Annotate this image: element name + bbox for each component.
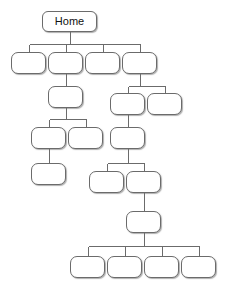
sitemap-node[interactable]: [122, 52, 157, 74]
sitemap-node[interactable]: [144, 256, 179, 278]
sitemap-node[interactable]: [31, 163, 66, 185]
sitemap-node[interactable]: [110, 127, 145, 149]
sitemap-node-label: Home: [55, 16, 84, 27]
sitemap-node[interactable]: [85, 52, 120, 74]
sitemap-node[interactable]: [31, 127, 66, 149]
sitemap-node[interactable]: [48, 86, 83, 108]
sitemap-node[interactable]: [70, 256, 105, 278]
sitemap-node[interactable]: [110, 93, 145, 115]
sitemap-diagram: Home: [0, 0, 225, 293]
sitemap-node[interactable]: [126, 211, 161, 233]
sitemap-node[interactable]: [181, 256, 216, 278]
sitemap-node[interactable]: [11, 52, 46, 74]
sitemap-node[interactable]: [89, 171, 124, 193]
sitemap-root-node[interactable]: Home: [42, 11, 97, 32]
sitemap-node[interactable]: [48, 52, 83, 74]
sitemap-node[interactable]: [107, 256, 142, 278]
sitemap-node[interactable]: [147, 93, 182, 115]
sitemap-node[interactable]: [68, 127, 103, 149]
sitemap-node[interactable]: [126, 171, 161, 193]
